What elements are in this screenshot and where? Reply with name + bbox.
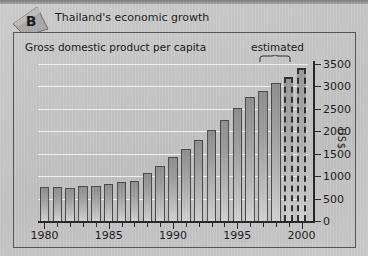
x-axis-line xyxy=(38,221,314,223)
x-axis-tick-label: 1980 xyxy=(30,229,58,242)
x-axis-minor-tick xyxy=(57,223,58,227)
y-axis-tick-label: 1500 xyxy=(323,148,351,159)
y-axis-tick xyxy=(315,86,321,87)
bar xyxy=(117,182,127,221)
y-axis-tick-label: 0 xyxy=(323,216,330,227)
bars-series xyxy=(38,64,308,221)
bar xyxy=(143,173,153,221)
chart-container: Gross domestic product per capita estima… xyxy=(13,32,356,248)
y-axis-tick-label: 2500 xyxy=(323,103,351,114)
x-axis-minor-tick xyxy=(160,223,161,227)
x-axis-tick-label: 1985 xyxy=(95,229,123,242)
bar xyxy=(207,130,217,221)
x-axis-minor-tick xyxy=(250,223,251,227)
bar xyxy=(130,181,140,221)
bar xyxy=(78,186,88,221)
y-axis-tick xyxy=(315,199,321,200)
y-axis-tick-label: 1000 xyxy=(323,171,351,182)
figure-panel: B Thailand's economic growth Gross domes… xyxy=(0,0,368,256)
x-axis-minor-tick xyxy=(122,223,123,227)
bar xyxy=(258,91,268,221)
bar xyxy=(271,83,281,221)
estimated-annotation-label: estimated xyxy=(251,41,304,53)
x-axis-minor-tick xyxy=(289,223,290,227)
x-axis-tick-label: 2000 xyxy=(288,229,316,242)
x-axis-minor-tick xyxy=(199,223,200,227)
x-axis-minor-tick xyxy=(186,223,187,227)
y-axis-tick xyxy=(315,154,321,155)
bar xyxy=(245,97,255,221)
bar xyxy=(53,187,63,221)
x-axis-minor-tick xyxy=(263,223,264,227)
bar xyxy=(91,186,101,221)
y-axis-tick xyxy=(315,221,321,222)
figure-header: B Thailand's economic growth xyxy=(0,4,368,32)
x-axis-tick-label: 1990 xyxy=(159,229,187,242)
x-axis-minor-tick xyxy=(224,223,225,227)
y-axis-title: US$ xyxy=(336,128,347,150)
x-axis-minor-tick xyxy=(70,223,71,227)
x-axis-minor-tick xyxy=(212,223,213,227)
figure-title: Thailand's economic growth xyxy=(55,11,209,24)
x-axis-minor-tick xyxy=(147,223,148,227)
bar xyxy=(65,188,75,221)
chart-title: Gross domestic product per capita xyxy=(25,41,206,53)
bar xyxy=(220,120,230,221)
bar xyxy=(168,157,178,221)
x-axis-tick-label: 1995 xyxy=(223,229,251,242)
y-axis-tick-label: 3500 xyxy=(323,59,351,70)
estimated-brace-icon xyxy=(259,55,291,63)
bar xyxy=(155,166,165,221)
bar xyxy=(104,184,114,221)
y-axis-tick-label: 3000 xyxy=(323,81,351,92)
bar xyxy=(233,108,243,221)
plot-area xyxy=(38,64,308,221)
y-axis-tick xyxy=(315,176,321,177)
x-axis-minor-tick xyxy=(96,223,97,227)
y-axis-tick xyxy=(315,64,321,65)
bar xyxy=(297,68,307,221)
y-axis-tick-label: 500 xyxy=(323,193,344,204)
bar xyxy=(40,187,50,221)
bar xyxy=(181,149,191,221)
x-axis-minor-tick xyxy=(83,223,84,227)
y-axis-tick xyxy=(315,131,321,132)
x-axis-minor-tick xyxy=(134,223,135,227)
y-axis-tick xyxy=(315,109,321,110)
x-axis-minor-tick xyxy=(276,223,277,227)
bar xyxy=(284,77,294,221)
bar xyxy=(194,140,204,221)
